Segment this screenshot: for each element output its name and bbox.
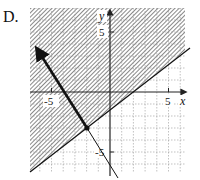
- x-tick-label-pos5: 5: [165, 95, 171, 107]
- x-tick-label-neg5: -5: [44, 95, 54, 107]
- y-axis-label: y: [98, 9, 105, 23]
- ray-continuation-line: [87, 128, 118, 178]
- y-tick-label-pos5: 5: [99, 26, 105, 38]
- vertex-point: [84, 125, 89, 130]
- x-axis-label: x: [179, 94, 186, 108]
- inequality-graph: -5 5 5 -5 y x: [0, 0, 200, 180]
